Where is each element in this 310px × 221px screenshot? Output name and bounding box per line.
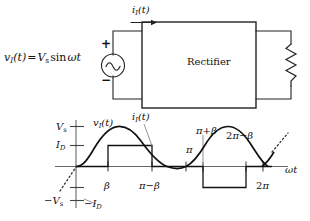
rectifier-block-label: Rectifier xyxy=(187,57,231,67)
input-current-label: iI(t) xyxy=(132,5,150,17)
source-top-wire xyxy=(113,31,142,55)
x-label-beta: β xyxy=(104,181,110,191)
x-label-2pi-minus-beta: 2π−β xyxy=(226,131,253,141)
resistor-zigzag xyxy=(286,44,296,86)
curve-label-current: iI(t) xyxy=(132,112,150,124)
x-label-pi-plus-beta: π+β xyxy=(196,126,217,136)
x-label-pi: π xyxy=(186,145,193,155)
axis-dotted-continuation xyxy=(272,133,288,152)
curve-label-voltage: vI(t) xyxy=(93,118,113,130)
ac-source-sine-glyph xyxy=(106,63,120,71)
source-equation-label: vI(t)=Vssinωt xyxy=(4,52,81,65)
source-minus-terminal: − xyxy=(101,74,111,86)
x-axis-title-omega-t: ωt xyxy=(285,165,297,175)
y-label-id: ID xyxy=(56,140,65,152)
current-label-leader xyxy=(144,124,152,146)
rectifier-figure: vI(t)=Vssinωt + − iI(t) Rectifier Vs ID … xyxy=(0,0,310,221)
y-label-minus-id: −ID xyxy=(84,199,102,211)
x-label-pi-minus-beta: π−β xyxy=(139,181,160,191)
voltage-sine-curve-accurate xyxy=(76,127,186,167)
source-bottom-wire xyxy=(113,76,142,99)
source-plus-terminal: + xyxy=(101,38,111,50)
curve-rise-after-2pi xyxy=(262,152,274,167)
y-label-minus-vs: −Vs xyxy=(44,196,63,208)
load-bottom-wire xyxy=(256,86,291,99)
y-label-vs: Vs xyxy=(56,122,67,134)
x-label-2pi: 2π xyxy=(256,181,269,191)
load-top-wire xyxy=(256,31,291,44)
